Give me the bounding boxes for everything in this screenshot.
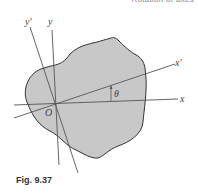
label-x-prime: x′ xyxy=(174,57,182,68)
label-origin: O xyxy=(45,107,52,118)
label-y: y xyxy=(47,16,53,27)
label-y-prime: y′ xyxy=(24,16,32,27)
label-theta: θ xyxy=(114,88,119,99)
label-x: x xyxy=(179,93,185,104)
rotation-of-axes-diagram: y′ y x′ x O θ xyxy=(0,0,198,194)
area-shape xyxy=(25,38,146,158)
figure-caption: Fig. 9.37 xyxy=(16,175,52,185)
